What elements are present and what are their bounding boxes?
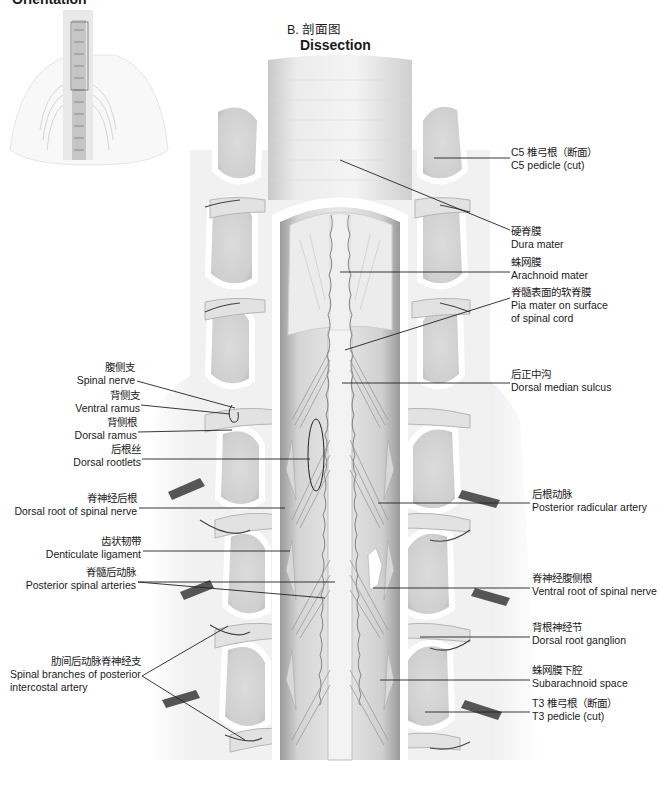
label-zh: 背侧支 xyxy=(75,389,140,402)
label-zh: 脊髓后动脉 xyxy=(26,566,136,579)
label-en: Dorsal ramus xyxy=(75,429,137,442)
label-ventral-root: 脊神经腹侧根 Ventral root of spinal nerve xyxy=(532,572,657,598)
label-zh: 后根动脉 xyxy=(532,488,647,501)
label-dorsal-rootlets: 后根丝 Dorsal rootlets xyxy=(73,443,141,469)
label-zh: 脊神经腹侧根 xyxy=(532,572,657,585)
label-en-line2: of spinal cord xyxy=(511,312,608,325)
label-ventral-ramus: 背侧支 Ventral ramus xyxy=(75,389,140,415)
label-en: Arachnoid mater xyxy=(511,269,588,282)
label-en: Ventral root of spinal nerve xyxy=(532,585,657,598)
label-en: Posterior radicular artery xyxy=(532,501,647,514)
label-zh: 后正中沟 xyxy=(511,368,611,381)
label-arachnoid-mater: 蛛网膜 Arachnoid mater xyxy=(511,256,588,282)
label-pia-mater: 脊髓表面的软脊膜 Pia mater on surface of spinal … xyxy=(511,286,608,325)
label-zh: 蛛网膜下腔 xyxy=(532,664,628,677)
label-en: Denticulate ligament xyxy=(46,548,141,561)
label-zh: C5 椎弓根（断面） xyxy=(511,146,597,159)
label-zh: 脊髓表面的软脊膜 xyxy=(511,286,608,299)
label-zh: 硬脊膜 xyxy=(511,225,564,238)
label-intercostal-spinal-branches: 肋间后动脉脊神经支 Spinal branches of posterior i… xyxy=(10,655,141,694)
label-zh: 肋间后动脉脊神经支 xyxy=(10,655,141,668)
label-denticulate-ligament: 齿状韧带 Denticulate ligament xyxy=(46,535,141,561)
label-dura-mater: 硬脊膜 Dura mater xyxy=(511,225,564,251)
label-zh: 蛛网膜 xyxy=(511,256,588,269)
label-en: Spinal branches of posterior xyxy=(10,668,141,681)
label-zh: 背侧根 xyxy=(75,416,137,429)
label-en: Dorsal median sulcus xyxy=(511,381,611,394)
label-en: C5 pedicle (cut) xyxy=(511,159,597,172)
label-dorsal-median-sulcus: 后正中沟 Dorsal median sulcus xyxy=(511,368,611,394)
label-dorsal-root: 脊神经后根 Dorsal root of spinal nerve xyxy=(14,492,137,518)
label-subarachnoid-space: 蛛网膜下腔 Subarachnoid space xyxy=(532,664,628,690)
label-en: Dorsal rootlets xyxy=(73,456,141,469)
label-dorsal-ramus: 背侧根 Dorsal ramus xyxy=(75,416,137,442)
label-zh: 背根神经节 xyxy=(532,621,626,634)
label-en: Posterior spinal arteries xyxy=(26,579,136,592)
label-posterior-spinal-arteries: 脊髓后动脉 Posterior spinal arteries xyxy=(26,566,136,592)
panel-b-title-en: Dissection xyxy=(287,38,371,53)
orientation-thumbnail xyxy=(10,10,168,165)
label-zh: T3 椎弓根（断面） xyxy=(532,697,617,710)
label-en: Pia mater on surface xyxy=(511,299,608,312)
label-en-line2: intercostal artery xyxy=(10,681,141,694)
label-en: Dura mater xyxy=(511,238,564,251)
label-en: Dorsal root of spinal nerve xyxy=(14,505,137,518)
label-en: Spinal nerve xyxy=(77,374,135,387)
label-zh: 脊神经后根 xyxy=(14,492,137,505)
panel-b-title: B. 剖面图 Dissection xyxy=(287,23,371,53)
panel-b-title-zh: B. 剖面图 xyxy=(287,23,371,38)
label-posterior-radicular-artery: 后根动脉 Posterior radicular artery xyxy=(532,488,647,514)
label-en: T3 pedicle (cut) xyxy=(532,710,617,723)
label-zh: 腹侧支 xyxy=(77,361,135,374)
label-c5-pedicle: C5 椎弓根（断面） C5 pedicle (cut) xyxy=(511,146,597,172)
label-t3-pedicle: T3 椎弓根（断面） T3 pedicle (cut) xyxy=(532,697,617,723)
label-zh: 齿状韧带 xyxy=(46,535,141,548)
label-en: Subarachnoid space xyxy=(532,677,628,690)
label-dorsal-root-ganglion: 背根神经节 Dorsal root ganglion xyxy=(532,621,626,647)
label-zh: 后根丝 xyxy=(73,443,141,456)
label-en: Dorsal root ganglion xyxy=(532,634,626,647)
label-en: Ventral ramus xyxy=(75,402,140,415)
label-spinal-nerve: 腹侧支 Spinal nerve xyxy=(77,361,135,387)
